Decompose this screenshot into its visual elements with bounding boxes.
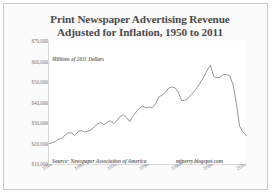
x-axis-tick-mark (80, 164, 81, 167)
x-axis-tick-mark (145, 164, 146, 167)
attribution-note: mjperry.blogspot.com (176, 158, 223, 164)
x-axis-tick-mark (209, 164, 210, 167)
y-axis-labels: $70,000$60,000$50,000$40,000$30,000$20,0… (14, 34, 48, 171)
chart-screenshot: Print Newspaper Advertising Revenue Adju… (0, 0, 272, 194)
chart-title-line-2: Adjusted for Inflation, 1950 to 2011 (28, 26, 252, 39)
x-axis-tick-mark (242, 164, 243, 167)
y-axis-tick-label: $60,000 (14, 59, 48, 65)
y-axis-tick-label: $40,000 (14, 100, 48, 106)
y-axis-tick-label: $50,000 (14, 79, 48, 85)
x-axis-tick-mark (113, 164, 114, 167)
units-annotation: Millions of 2011 Dollars (52, 56, 104, 62)
source-note: Source: Newspaper Association of America (52, 158, 146, 164)
y-axis-tick-label: $20,000 (14, 141, 48, 147)
x-axis-tick-mark (48, 164, 49, 167)
chart-title: Print Newspaper Advertising Revenue Adju… (28, 13, 252, 38)
chart-title-line-1: Print Newspaper Advertising Revenue (28, 13, 252, 26)
y-axis-tick-label: $30,000 (14, 120, 48, 126)
x-axis-labels: 1950196019701980199020002010 (48, 166, 248, 188)
y-axis-tick-label: $70,000 (14, 38, 48, 44)
x-axis-tick-mark (177, 164, 178, 167)
